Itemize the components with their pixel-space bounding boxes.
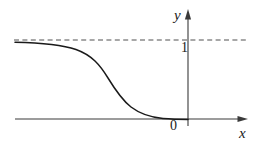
y-tick-label-1: 1: [181, 41, 188, 55]
math-plot-figure: y x 1 0: [0, 0, 259, 149]
sigmoid-curve: [15, 42, 188, 119]
y-axis-arrowhead: [185, 9, 191, 20]
plot-canvas: [0, 0, 259, 149]
origin-label: 0: [170, 119, 177, 133]
x-axis-label: x: [239, 126, 246, 141]
y-axis-label: y: [174, 8, 181, 23]
x-axis-arrowhead: [238, 116, 249, 122]
